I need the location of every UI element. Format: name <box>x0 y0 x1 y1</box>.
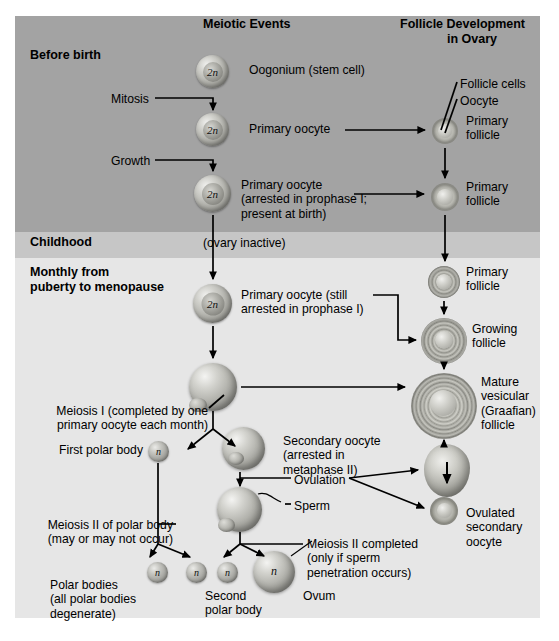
ploidy-label-second-polar-body: n <box>225 567 230 578</box>
ploidy-label-primary-oocyte-still: 2n <box>207 297 218 309</box>
ploidy-label-ovum: n <box>271 564 277 579</box>
arrow-still-arrested-to-growing-follicle <box>373 295 416 340</box>
arrow-polar-body-split-left <box>150 544 158 557</box>
arrow-ovulation-to-ovulated-oocyte <box>349 478 424 508</box>
ploidy-label-primary-oocyte-arrested: 2n <box>207 187 218 199</box>
ploidy-label-polar-body-b: n <box>194 567 199 578</box>
ploidy-label-first-polar-body: n <box>156 446 161 457</box>
arrow-mitosis <box>155 98 213 110</box>
oogenesis-diagram: Meiotic Events Follicle Development in O… <box>0 0 559 641</box>
arrow-meiosis-i-to-secondary-oocyte <box>213 429 235 446</box>
arrow-overlay <box>0 0 559 641</box>
leader-oocyte <box>445 99 457 133</box>
arrow-ovulation-to-ruptured-follicle <box>349 470 418 478</box>
arrow-meiosis-ii-to-second-polar-body <box>224 544 240 557</box>
ploidy-label-primary-oocyte-1: 2n <box>207 123 218 135</box>
leader-meiosis-i <box>209 395 224 408</box>
arrow-growth <box>155 160 213 171</box>
ploidy-label-oogonium: 2n <box>207 65 218 77</box>
ploidy-label-polar-body-a: n <box>155 567 160 578</box>
arrow-meiosis-i-to-polar-body <box>188 429 213 449</box>
sperm-tail <box>258 493 281 502</box>
arrow-polar-body-split-right <box>158 544 190 557</box>
arrow-meiosis-ii-to-ovum <box>240 544 264 556</box>
